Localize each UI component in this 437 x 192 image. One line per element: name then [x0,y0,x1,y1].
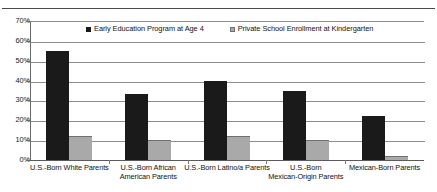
bar-early-education [46,51,69,160]
bar-private-school [69,136,92,160]
x-axis-category-labels: U.S.-Born White ParentsU.S.-Born African… [30,163,424,191]
category-separator-tick [188,160,189,164]
bar-private-school [306,140,329,160]
chart-legend: Early Education Program at Age 4 Private… [86,23,386,35]
legend-label-series-1: Early Education Program at Age 4 [94,25,204,33]
bar-chart-figure: 70%60%50%40%30%20%10%0% Early Education … [0,0,437,192]
bar-early-education [283,91,306,161]
legend-label-series-2: Private School Enrollment at Kindergarte… [238,25,374,33]
x-axis-label-line: Mexican-Origin Parents [259,172,352,181]
category-separator-tick [345,160,346,164]
bar-early-education [204,81,227,160]
top-divider-rule [2,8,435,9]
bar-private-school [148,140,171,160]
category-separator-tick [266,160,267,164]
x-axis-label: Mexican-Born Parents [338,163,431,172]
bars-layer [30,21,424,160]
legend-item-early-education: Early Education Program at Age 4 [86,25,204,33]
legend-swatch-icon-series-1 [86,27,91,32]
bar-early-education [125,94,148,160]
x-axis-label-line: American Parents [102,172,195,181]
category-separator-tick [109,160,110,164]
legend-item-private-school: Private School Enrollment at Kindergarte… [230,25,374,33]
x-axis-label-line: Mexican-Born Parents [338,163,431,172]
x-axis-line [30,160,424,161]
bar-private-school [227,136,250,160]
bar-early-education [362,116,385,160]
legend-swatch-icon-series-2 [230,27,235,32]
